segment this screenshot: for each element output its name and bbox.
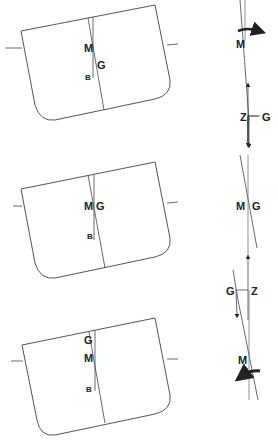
righting-moment-arrow-icon <box>238 29 259 31</box>
force-label-g: G <box>262 111 271 123</box>
label-g: G <box>96 200 105 212</box>
stability-diagram: M G B M Z G M G B M G <box>0 0 278 447</box>
label-b: B <box>85 73 91 82</box>
label-m: M <box>84 200 93 212</box>
label-g: G <box>97 59 106 71</box>
force-label-g: G <box>226 285 235 297</box>
force-label-z: Z <box>251 285 258 297</box>
force-label-z: Z <box>240 111 247 123</box>
force-label-m: M <box>236 38 245 50</box>
label-m: M <box>84 352 93 364</box>
label-b: B <box>86 385 92 394</box>
label-m: M <box>84 42 93 54</box>
force-label-g: G <box>252 200 261 212</box>
label-b: B <box>87 232 93 241</box>
ship-hull-row2 <box>13 162 178 278</box>
force-diagram-row1 <box>240 0 260 147</box>
force-label-m: M <box>238 354 247 366</box>
label-g: G <box>84 334 93 346</box>
force-label-m: M <box>236 200 245 212</box>
ship-hull-row1 <box>5 5 178 120</box>
ship-hull-row3 <box>11 318 178 435</box>
force-lines-row1 <box>248 85 258 116</box>
capsizing-moment-arrow-icon <box>242 371 260 376</box>
